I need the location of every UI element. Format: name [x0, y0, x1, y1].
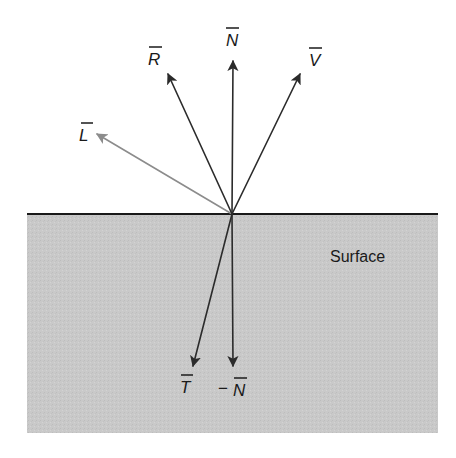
label-v-text: V	[309, 51, 322, 70]
surface-label: Surface	[330, 248, 385, 265]
label-v: V	[309, 48, 322, 70]
vector-r-arrow	[168, 74, 232, 214]
label-t-text: T	[180, 378, 192, 397]
vector-l-arrow	[97, 134, 232, 214]
label-l-text: L	[79, 126, 88, 145]
label-r-text: R	[148, 50, 160, 69]
label-l: L	[79, 123, 93, 145]
vector-v-arrow	[232, 74, 300, 214]
label-r: R	[148, 47, 162, 69]
label-n-text: N	[226, 31, 239, 50]
label-neg-n-prefix: −	[218, 379, 228, 398]
vector-n-arrow	[232, 61, 233, 214]
label-neg-n-text: N	[233, 381, 246, 400]
label-n: N	[226, 28, 239, 50]
reflection-diagram: N R V L T − N Surface	[0, 0, 456, 458]
label-neg-n: − N	[218, 378, 247, 400]
vector-neg-n-arrow	[232, 214, 233, 366]
